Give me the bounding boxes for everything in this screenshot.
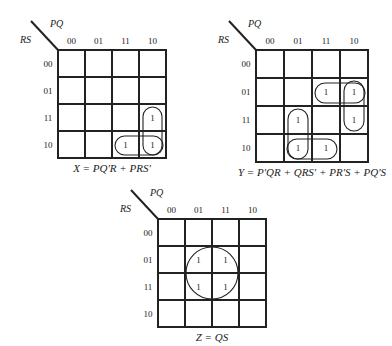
row-variable-label: RS [19, 34, 31, 45]
cell-value-one: 1 [123, 140, 128, 150]
kmap-diagram: PQRS0001111000011110111X = PQ′R + PRS′PQ… [0, 0, 392, 346]
row-header: 01 [144, 255, 153, 265]
row-header: 11 [144, 282, 153, 292]
row-header: 01 [242, 87, 251, 97]
kmap-X: PQRS0001111000011110111X = PQ′R + PRS′ [19, 18, 166, 174]
cell-value-one: 1 [296, 143, 301, 153]
row-header: 11 [242, 115, 251, 125]
cell-value-one: 1 [324, 143, 329, 153]
column-header: 11 [121, 36, 130, 46]
column-variable-label: PQ [247, 18, 262, 29]
kmap-Y: PQRS0001111000011110111111Y = P′QR + QRS… [217, 18, 387, 178]
cell-value-one: 1 [296, 115, 301, 125]
kmap-grid [256, 50, 368, 162]
kmap-equation: Z = QS [196, 331, 229, 343]
row-header: 00 [144, 228, 154, 238]
column-variable-label: PQ [149, 187, 164, 198]
row-header: 00 [242, 59, 252, 69]
cell-value-one: 1 [352, 87, 357, 97]
cell-value-one: 1 [150, 140, 155, 150]
column-header: 01 [294, 36, 303, 46]
column-header: 00 [67, 36, 77, 46]
column-header: 00 [167, 205, 177, 215]
column-header: 10 [350, 36, 360, 46]
row-header: 01 [44, 86, 53, 96]
kmap-equation: Y = P′QR + QRS′ + PR′S + PQ′S [238, 166, 387, 178]
kmap-Z: PQRS00011110000111101111Z = QS [119, 187, 266, 343]
column-variable-label: PQ [49, 18, 64, 29]
column-header: 11 [322, 36, 331, 46]
column-header: 00 [266, 36, 276, 46]
row-variable-label: RS [119, 203, 131, 214]
column-header: 01 [194, 205, 203, 215]
cell-value-one: 1 [196, 282, 201, 292]
column-header: 01 [94, 36, 103, 46]
kmap-grid [158, 219, 266, 327]
row-header: 10 [144, 309, 154, 319]
cell-value-one: 1 [352, 115, 357, 125]
column-header: 10 [148, 36, 158, 46]
row-header: 10 [242, 143, 252, 153]
cell-value-one: 1 [324, 87, 329, 97]
row-header: 11 [44, 113, 53, 123]
kmap-equation: X = PQ′R + PRS′ [72, 162, 151, 174]
cell-value-one: 1 [223, 282, 228, 292]
row-variable-label: RS [217, 34, 229, 45]
row-header: 10 [44, 140, 54, 150]
cell-value-one: 1 [150, 113, 155, 123]
cell-value-one: 1 [196, 255, 201, 265]
cell-value-one: 1 [223, 255, 228, 265]
row-header: 00 [44, 59, 54, 69]
column-header: 11 [221, 205, 230, 215]
column-header: 10 [248, 205, 258, 215]
